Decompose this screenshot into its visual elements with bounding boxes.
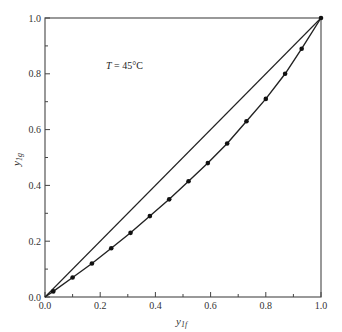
y-tick-label: 0.4	[29, 180, 42, 191]
data-point	[283, 72, 288, 77]
data-point	[299, 46, 304, 51]
y-tick-label: 1.0	[29, 13, 42, 24]
x-tick-label: 0.4	[149, 300, 162, 311]
series	[45, 16, 323, 297]
y-tick-label: 0.0	[29, 292, 42, 303]
y-tick-label: 0.8	[29, 68, 42, 79]
data-point	[70, 275, 75, 280]
data-point	[167, 197, 172, 202]
data-point	[90, 261, 95, 266]
data-point	[186, 179, 191, 184]
x-axis-label: y1f	[175, 315, 189, 329]
data-point	[319, 16, 324, 21]
data-point	[109, 246, 114, 251]
data-point	[148, 214, 153, 219]
annotation: T = 45°C	[106, 60, 143, 71]
annotation-rest: = 45°C	[112, 60, 144, 71]
y-axis-label: y1g	[10, 153, 24, 167]
x-tick-label: 0.2	[94, 300, 107, 311]
x-tick-label: 1.0	[315, 300, 328, 311]
data-point	[51, 289, 56, 294]
x-tick-label: 0.6	[204, 300, 217, 311]
data-point	[244, 119, 249, 124]
y-tick-label: 0.2	[29, 236, 42, 247]
chart: 0.00.20.40.60.81.00.00.20.40.60.81.0 T =…	[0, 0, 342, 332]
diagonal-line	[45, 18, 321, 297]
data-point	[206, 161, 211, 166]
data-point	[264, 97, 269, 102]
x-tick-label: 0.8	[260, 300, 273, 311]
data-point	[225, 141, 230, 146]
data-point	[128, 231, 133, 236]
y-tick-label: 0.6	[29, 124, 42, 135]
